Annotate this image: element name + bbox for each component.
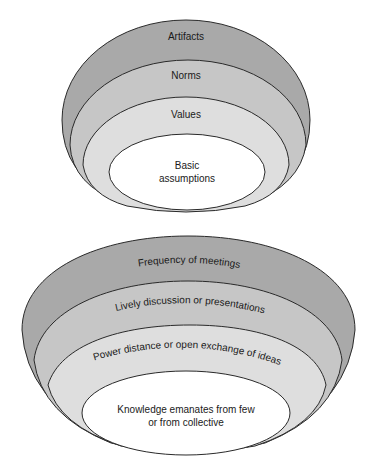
label-basic: Basic bbox=[175, 160, 199, 171]
label-knowledge-line1: Knowledge emanates from few bbox=[117, 404, 255, 415]
layer-basic-assumptions bbox=[109, 134, 265, 210]
label-knowledge-line2: or from collective bbox=[148, 417, 224, 428]
label-values: Values bbox=[171, 109, 201, 120]
label-norms: Norms bbox=[171, 70, 200, 81]
bottom-meeting-diagram: Frequency of meetings Lively discussion … bbox=[22, 236, 355, 455]
onion-diagrams: Artifacts Norms Values Basic assumptions… bbox=[0, 0, 370, 463]
label-artifacts: Artifacts bbox=[168, 31, 204, 42]
label-assumptions: assumptions bbox=[159, 173, 215, 184]
top-culture-diagram: Artifacts Norms Values Basic assumptions bbox=[62, 20, 310, 212]
